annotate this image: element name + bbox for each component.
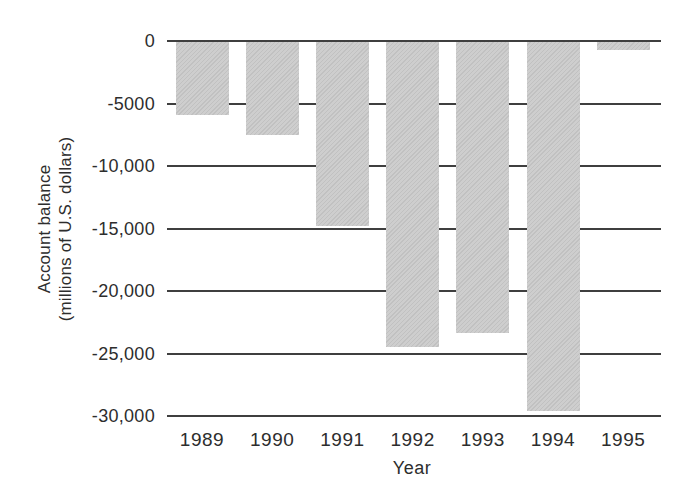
- bar-chart-figure: Account balance (millions of U.S. dollar…: [0, 0, 688, 499]
- bar-1994: [527, 42, 580, 411]
- y-tick-label--30000: -30,000: [38, 405, 155, 427]
- x-tick-label-1992: 1992: [378, 429, 448, 451]
- x-tick-label-1989: 1989: [167, 429, 237, 451]
- y-tick-label--25000: -25,000: [38, 343, 155, 365]
- bar-1992: [386, 42, 439, 347]
- bar-1991: [316, 42, 369, 226]
- bar-1995: [597, 42, 650, 50]
- gridline--30000: [167, 415, 661, 417]
- y-tick-label--15000: -15,000: [38, 218, 155, 240]
- y-tick-label--5000: -5000: [38, 93, 155, 115]
- y-tick-label--10000: -10,000: [38, 155, 155, 177]
- x-tick-label-1993: 1993: [448, 429, 518, 451]
- gridline--25000: [167, 353, 661, 355]
- bar-1993: [456, 42, 509, 333]
- x-tick-label-1991: 1991: [307, 429, 377, 451]
- x-tick-label-1990: 1990: [237, 429, 307, 451]
- x-tick-label-1995: 1995: [588, 429, 658, 451]
- plot-area: [167, 41, 661, 416]
- x-tick-label-1994: 1994: [518, 429, 588, 451]
- bar-1990: [246, 42, 299, 135]
- y-tick-label--20000: -20,000: [38, 280, 155, 302]
- y-tick-label-0: 0: [38, 30, 155, 52]
- bar-1989: [176, 42, 229, 115]
- x-axis-title: Year: [362, 458, 462, 479]
